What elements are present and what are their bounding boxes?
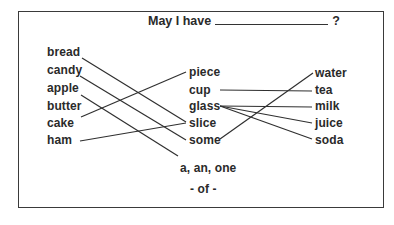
line-candy-some xyxy=(80,76,186,140)
line-bread-slice xyxy=(82,58,186,122)
line-apple-article xyxy=(81,95,178,156)
line-cup-tea xyxy=(220,90,312,91)
line-cake-piece xyxy=(81,72,186,117)
line-glass-soda xyxy=(220,106,312,139)
connection-lines xyxy=(0,0,394,225)
line-glass-juice xyxy=(220,106,312,123)
line-ham-slice xyxy=(80,123,186,141)
